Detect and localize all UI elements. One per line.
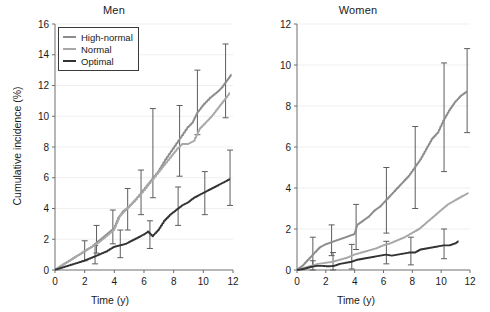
y-tick-label: 6 xyxy=(43,172,49,183)
x-tick-label: 12 xyxy=(464,276,476,287)
x-tick-label: 0 xyxy=(52,276,58,287)
x-tick-label: 10 xyxy=(436,276,448,287)
y-axis-label-men: Cumulative incidence (%) xyxy=(11,71,23,221)
series-line-optimal xyxy=(297,241,458,270)
error-bar xyxy=(441,229,447,259)
y-tick-label: 8 xyxy=(285,101,291,112)
y-tick-label: 4 xyxy=(285,183,291,194)
y-tick-label: 0 xyxy=(43,265,49,276)
y-tick-label: 14 xyxy=(38,49,50,60)
series-line-normal xyxy=(55,93,230,270)
legend-swatch-optimal-icon xyxy=(63,60,76,62)
plot-area-women: 024681012024681012 xyxy=(248,0,490,312)
x-tick-label: 10 xyxy=(198,276,210,287)
y-tick-label: 16 xyxy=(38,19,50,30)
legend-label-high-normal: High-normal xyxy=(81,32,133,43)
x-tick-label: 4 xyxy=(352,276,358,287)
y-tick-label: 12 xyxy=(280,19,292,30)
x-axis-label-women: Time (y) xyxy=(256,294,456,306)
error-bar xyxy=(194,70,200,135)
legend-swatch-high-normal-icon xyxy=(63,36,76,38)
series-line-high-normal xyxy=(297,92,467,270)
panel-men: Men Cumulative incidence (%) Time (y) 02… xyxy=(0,0,248,312)
y-tick-label: 8 xyxy=(43,142,49,153)
x-tick-label: 8 xyxy=(171,276,177,287)
y-tick-label: 12 xyxy=(38,80,50,91)
y-tick-label: 6 xyxy=(285,142,291,153)
y-tick-label: 2 xyxy=(285,224,291,235)
y-tick-label: 4 xyxy=(43,203,49,214)
x-tick-label: 4 xyxy=(112,276,118,287)
figure-root: Men Cumulative incidence (%) Time (y) 02… xyxy=(0,0,490,312)
error-bar xyxy=(150,109,156,198)
y-tick-label: 2 xyxy=(43,234,49,245)
panel-title-men: Men xyxy=(14,4,214,16)
error-bar xyxy=(329,225,335,256)
panel-title-women: Women xyxy=(258,4,458,16)
x-tick-label: 6 xyxy=(141,276,147,287)
legend-label-normal: Normal xyxy=(81,44,112,55)
x-tick-label: 2 xyxy=(82,276,88,287)
y-tick-label: 10 xyxy=(280,60,292,71)
error-bar xyxy=(408,237,414,265)
y-tick-label: 10 xyxy=(38,111,50,122)
legend-men: High-normal Normal Optimal xyxy=(58,27,139,71)
legend-item-optimal: Optimal xyxy=(63,55,133,67)
x-tick-label: 0 xyxy=(294,276,300,287)
x-axis-label-men: Time (y) xyxy=(10,294,210,306)
x-tick-label: 6 xyxy=(381,276,387,287)
legend-item-high-normal: High-normal xyxy=(63,31,133,43)
x-tick-label: 12 xyxy=(227,276,239,287)
x-tick-label: 8 xyxy=(410,276,416,287)
y-tick-label: 0 xyxy=(285,265,291,276)
legend-swatch-normal-icon xyxy=(63,48,76,50)
x-tick-label: 2 xyxy=(323,276,329,287)
panel-women: Women Time (y) 024681012024681012 High-n… xyxy=(248,0,490,312)
legend-label-optimal: Optimal xyxy=(81,56,114,67)
error-bar xyxy=(464,49,470,133)
legend-item-normal: Normal xyxy=(63,43,133,55)
